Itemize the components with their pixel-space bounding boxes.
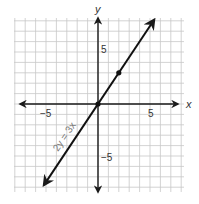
data-point	[116, 70, 121, 75]
coordinate-plane-chart: x y −5 5 5 −5 2y = 3x	[0, 0, 199, 204]
x-axis-label: x	[185, 98, 192, 110]
data-point	[95, 101, 100, 106]
y-tick-label-neg5: −5	[101, 152, 113, 163]
y-tick-label-5: 5	[101, 44, 107, 55]
x-tick-label-5: 5	[148, 108, 154, 119]
x-tick-label-neg5: −5	[40, 108, 52, 119]
y-axis-label: y	[94, 3, 102, 15]
